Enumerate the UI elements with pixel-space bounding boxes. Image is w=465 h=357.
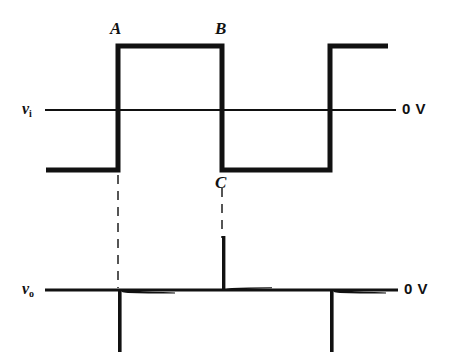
zero-volts-label-top: 0 V <box>402 101 426 116</box>
input-signal-subscript: i <box>29 108 32 119</box>
point-label-a: A <box>110 20 121 37</box>
point-label-b: B <box>215 20 226 37</box>
output-signal-label: vo <box>22 281 34 297</box>
output-spike-negative-1 <box>118 289 175 352</box>
output-signal-subscript: o <box>29 288 34 299</box>
point-label-c: C <box>215 174 226 191</box>
waveform-canvas <box>0 0 465 357</box>
input-square-wave-trace <box>46 46 388 170</box>
input-signal-label: vi <box>22 101 32 117</box>
output-spike-positive-c <box>222 236 272 291</box>
zero-volts-label-bottom: 0 V <box>404 281 428 296</box>
output-spike-negative-2 <box>330 289 386 352</box>
waveform-figure: A B C vi vo 0 V 0 V <box>0 0 465 357</box>
